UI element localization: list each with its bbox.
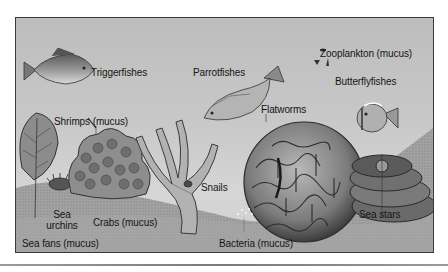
label-crabs: Crabs (mucus): [93, 217, 157, 228]
coral-cluster-icon: [69, 118, 151, 199]
label-shrimps: Shrimps (mucus): [54, 116, 128, 127]
triggerfish-icon: [24, 48, 94, 84]
brain-coral-icon: [244, 122, 364, 242]
label-sea-fans: Sea fans (mucus): [22, 238, 99, 249]
label-parrotfishes: Parrotfishes: [193, 67, 245, 78]
label-butterflyfishes: Butterflyfishes: [335, 76, 396, 87]
butterflyfish-icon: [357, 103, 398, 132]
label-sea-stars: Sea stars: [359, 209, 400, 220]
horizontal-divider: [0, 264, 448, 266]
label-triggerfishes: Triggerfishes: [91, 67, 147, 78]
label-sea-urchins: Sea urchins: [44, 209, 80, 231]
label-flatworms: Flatworms: [261, 104, 306, 115]
label-zooplankton: Zooplankton (mucus): [320, 48, 412, 59]
reef-illustration: Triggerfishes Parrotfishes Zooplankton (…: [15, 17, 434, 253]
label-bacteria: Bacteria (mucus): [219, 238, 293, 249]
label-snails: Snails: [201, 182, 228, 193]
